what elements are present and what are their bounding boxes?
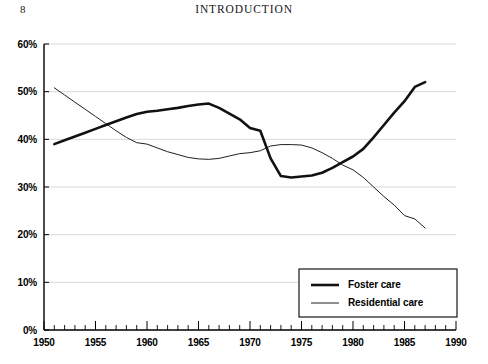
chart-legend: Foster care Residential care bbox=[299, 269, 457, 317]
x-axis-tick-label: 1990 bbox=[445, 337, 467, 348]
x-axis-tick-label: 1955 bbox=[85, 337, 107, 348]
x-axis-tick-label: 1975 bbox=[291, 337, 313, 348]
series-line-residential-care bbox=[54, 88, 425, 228]
legend-frame bbox=[299, 269, 457, 317]
y-axis-tick-labels: 0%10%20%30%40%50%60% bbox=[18, 39, 38, 336]
y-axis-tick-label: 10% bbox=[18, 277, 38, 288]
legend-label-foster-care: Foster care bbox=[348, 279, 401, 290]
x-axis-tick-label: 1960 bbox=[136, 337, 158, 348]
legend-label-residential-care: Residential care bbox=[348, 297, 424, 308]
y-axis-tick-label: 50% bbox=[18, 86, 38, 97]
x-axis-tick-labels: 195019551960196519701975198019851990 bbox=[33, 337, 467, 348]
y-axis-tick-label: 30% bbox=[18, 182, 38, 193]
x-axis-tick-label: 1985 bbox=[394, 337, 416, 348]
y-tick-marks-group bbox=[44, 44, 49, 330]
series-line-foster-care bbox=[54, 82, 425, 177]
line-chart-figure: 0%10%20%30%40%50%60% 1950195519601965197… bbox=[0, 0, 488, 364]
x-axis-tick-label: 1965 bbox=[188, 337, 210, 348]
x-tick-marks-group bbox=[44, 321, 456, 330]
gridlines-group bbox=[44, 44, 456, 282]
y-axis-tick-label: 20% bbox=[18, 229, 38, 240]
y-axis-tick-label: 40% bbox=[18, 134, 38, 145]
x-axis-tick-label: 1980 bbox=[342, 337, 364, 348]
x-axis-tick-label: 1950 bbox=[33, 337, 55, 348]
book-page: 8 INTRODUCTION 0%10%20%30%40%50%60% 1950… bbox=[0, 0, 488, 364]
x-axis-tick-label: 1970 bbox=[239, 337, 261, 348]
y-axis-tick-label: 0% bbox=[23, 325, 37, 336]
y-axis-tick-label: 60% bbox=[18, 39, 38, 50]
chart-canvas: 0%10%20%30%40%50%60% 1950195519601965197… bbox=[0, 0, 488, 364]
